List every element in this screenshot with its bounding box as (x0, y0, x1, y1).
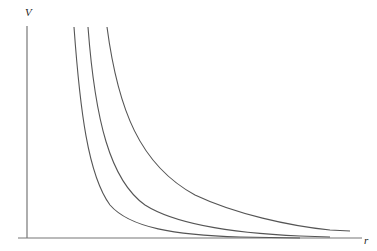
x-axis-label: r (364, 234, 368, 246)
curve-3 (107, 27, 350, 231)
curve-1 (74, 27, 300, 238)
y-axis-label: V (25, 6, 32, 18)
diagram: V r (0, 0, 377, 251)
plot-area (0, 0, 377, 251)
curve-2 (88, 27, 330, 237)
